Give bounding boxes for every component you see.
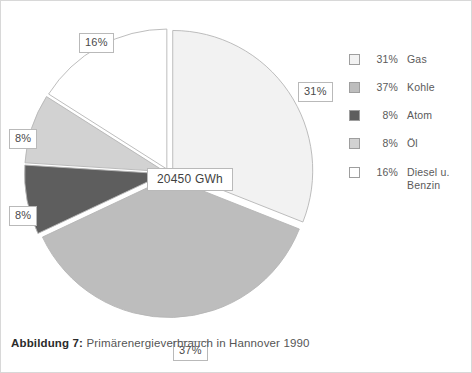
figure-container: 16% 31% 8% 8% 37% 20450 GWh 31%Gas37%Koh…: [0, 0, 472, 373]
legend-percent: 8%: [368, 137, 398, 149]
legend-swatch-icon: [349, 110, 360, 121]
legend-percent: 8%: [368, 109, 398, 121]
legend-item[interactable]: 31%Gas: [349, 53, 467, 66]
pie-center-total: 20450 GWh: [147, 168, 233, 191]
legend-label: Kohle: [407, 81, 435, 94]
legend-label: Atom: [407, 109, 432, 122]
chart-area: 16% 31% 8% 8% 37% 20450 GWh 31%Gas37%Koh…: [1, 1, 472, 319]
legend-swatch-icon: [349, 82, 360, 93]
chart-legend: 31%Gas37%Kohle8%Atom8%Öl16%Diesel u. Ben…: [349, 53, 467, 207]
legend-item[interactable]: 8%Atom: [349, 109, 467, 122]
slice-label-diesel: 16%: [79, 33, 114, 53]
legend-label: Öl: [407, 137, 418, 150]
legend-swatch-icon: [349, 138, 360, 149]
slice-label-ol: 8%: [9, 129, 37, 149]
legend-percent: 16%: [368, 166, 398, 178]
legend-percent: 37%: [368, 81, 398, 93]
caption-text: Primärenergieverbrauch in Hannover 1990: [83, 337, 310, 349]
legend-swatch-icon: [349, 167, 360, 178]
legend-item[interactable]: 8%Öl: [349, 137, 467, 150]
slice-label-atom: 8%: [9, 206, 37, 226]
figure-caption: Abbildung 7: Primärenergieverbrauch in H…: [11, 337, 310, 349]
legend-label: Gas: [407, 53, 427, 66]
legend-swatch-icon: [349, 54, 360, 65]
caption-number: Abbildung 7:: [11, 337, 83, 349]
legend-item[interactable]: 37%Kohle: [349, 81, 467, 94]
legend-percent: 31%: [368, 53, 398, 65]
legend-label: Diesel u. Benzin: [407, 166, 467, 192]
legend-item[interactable]: 16%Diesel u. Benzin: [349, 166, 467, 192]
slice-label-gas: 31%: [298, 82, 333, 102]
